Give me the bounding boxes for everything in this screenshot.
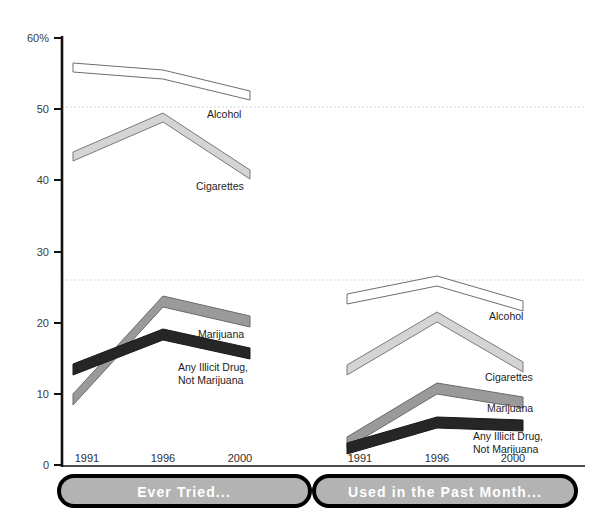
label-left-illicit-line1: Any Illicit Drug,: [178, 361, 248, 373]
y-axis-label-30: 30: [37, 246, 49, 258]
label-right-marijuana: Marijuana: [487, 402, 533, 414]
label-left-marijuana: Marijuana: [198, 328, 244, 340]
x-tick-right-1991: 1991: [348, 452, 372, 464]
y-axis-label-60: 60%: [27, 32, 49, 44]
drug-use-trends-chart: 60% 50 40 30 20 10 0: [0, 0, 592, 529]
label-right-alcohol: Alcohol: [489, 310, 523, 322]
panel-band-group: Ever Tried... Used in the Past Month...: [59, 476, 576, 506]
x-tick-right-2000: 2000: [501, 452, 525, 464]
y-axis-label-40: 40: [37, 174, 49, 186]
x-tick-left-1991: 1991: [75, 452, 99, 464]
label-right-illicit-line1: Any Illicit Drug,: [473, 430, 543, 442]
label-left-cigarettes: Cigarettes: [196, 180, 244, 192]
y-axis-label-20: 20: [37, 317, 49, 329]
label-left-alcohol: Alcohol: [207, 108, 241, 120]
y-axis-label-0: 0: [43, 459, 49, 471]
chart-container: 60% 50 40 30 20 10 0: [0, 0, 592, 529]
y-axis-label-10: 10: [37, 388, 49, 400]
label-right-cigarettes: Cigarettes: [485, 371, 533, 383]
y-axis-label-50: 50: [37, 103, 49, 115]
x-tick-left-1996: 1996: [151, 452, 175, 464]
x-tick-left-2000: 2000: [228, 452, 252, 464]
band-label-ever-tried: Ever Tried...: [137, 484, 231, 500]
x-tick-right-1996: 1996: [425, 452, 449, 464]
band-label-used-past-month: Used in the Past Month...: [348, 484, 542, 500]
label-left-illicit-line2: Not Marijuana: [178, 374, 244, 386]
